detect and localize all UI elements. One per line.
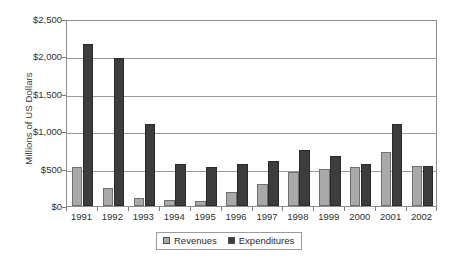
legend-swatch-revenues-icon xyxy=(163,237,170,244)
legend-item-expenditures: Expenditures xyxy=(228,235,294,246)
bar-expenditures-2000 xyxy=(361,164,372,206)
bar-group xyxy=(129,21,160,206)
x-axis-tick-labels: 1991199219931994199519961997199819992000… xyxy=(66,211,437,227)
bar-group xyxy=(407,21,438,206)
bar-revenues-2001 xyxy=(381,152,392,206)
x-axis-tick-label: 1999 xyxy=(313,211,344,222)
legend-label: Revenues xyxy=(174,235,217,246)
chart-legend: RevenuesExpenditures xyxy=(156,232,302,250)
bar-revenues-2000 xyxy=(350,167,361,206)
bar-group xyxy=(98,21,129,206)
bar-expenditures-1996 xyxy=(237,164,248,206)
legend-swatch-expenditures-icon xyxy=(228,237,235,244)
y-axis-tick-mark xyxy=(62,57,66,58)
bar-expenditures-1997 xyxy=(268,161,279,206)
x-axis-tick-label: 1991 xyxy=(66,211,97,222)
y-axis-tick-label: $1,000 xyxy=(18,126,62,137)
bar-group xyxy=(376,21,407,206)
bar-expenditures-1994 xyxy=(175,164,186,206)
bar-revenues-2002 xyxy=(412,166,423,206)
y-axis-tick-mark xyxy=(62,170,66,171)
y-axis-tick-label: $500 xyxy=(18,164,62,175)
y-axis-tick-label: $2,000 xyxy=(18,51,62,62)
legend-label: Expenditures xyxy=(239,235,294,246)
bar-group xyxy=(222,21,253,206)
x-axis-tick-label: 1998 xyxy=(282,211,313,222)
y-axis-tick-label: $1,500 xyxy=(18,89,62,100)
y-axis-tick-mark xyxy=(62,132,66,133)
bar-group xyxy=(160,21,191,206)
x-axis-tick-label: 1992 xyxy=(97,211,128,222)
bar-expenditures-1992 xyxy=(114,58,125,206)
y-axis-tick-mark xyxy=(62,20,66,21)
y-axis-tick-labels: $0$500$1,000$1,500$2,000$2,500 xyxy=(14,0,62,259)
bar-group xyxy=(67,21,98,206)
legend-item-revenues: Revenues xyxy=(163,235,217,246)
y-axis-tick-label: $0 xyxy=(18,201,62,212)
bar-expenditures-1993 xyxy=(145,124,156,206)
bar-group xyxy=(345,21,376,206)
y-axis-tick-mark xyxy=(62,95,66,96)
bar-revenues-1991 xyxy=(72,167,83,206)
bar-revenues-1992 xyxy=(103,188,114,206)
bar-expenditures-1999 xyxy=(330,156,341,206)
bar-group xyxy=(191,21,222,206)
bar-revenues-1998 xyxy=(288,172,299,206)
bar-revenues-1999 xyxy=(319,169,330,206)
bar-expenditures-1998 xyxy=(299,150,310,206)
bar-expenditures-1991 xyxy=(83,44,94,206)
bar-expenditures-2001 xyxy=(392,124,403,206)
x-axis-tick-label: 1997 xyxy=(252,211,283,222)
bars-layer xyxy=(67,21,436,206)
x-axis-tick-label: 1994 xyxy=(159,211,190,222)
bar-revenues-1996 xyxy=(226,192,237,206)
bar-expenditures-2002 xyxy=(423,166,434,206)
x-axis-tick-label: 1993 xyxy=(128,211,159,222)
bar-revenues-1997 xyxy=(257,184,268,206)
plot-area xyxy=(66,20,437,207)
x-axis-tick-label: 2000 xyxy=(344,211,375,222)
bar-group xyxy=(283,21,314,206)
bar-revenues-1993 xyxy=(134,198,145,206)
bar-revenues-1994 xyxy=(164,200,175,206)
x-axis-tick-label: 1996 xyxy=(221,211,252,222)
bar-revenues-1995 xyxy=(195,201,206,206)
y-axis-tick-mark xyxy=(62,207,66,208)
x-axis-tick-label: 2002 xyxy=(406,211,437,222)
bar-chart: Millions of US Dollars $0$500$1,000$1,50… xyxy=(0,0,452,259)
y-axis-tick-label: $2,500 xyxy=(18,14,62,25)
bar-group xyxy=(253,21,284,206)
bar-group xyxy=(314,21,345,206)
x-axis-tick-label: 1995 xyxy=(190,211,221,222)
x-axis-tick-label: 2001 xyxy=(375,211,406,222)
bar-expenditures-1995 xyxy=(206,167,217,206)
